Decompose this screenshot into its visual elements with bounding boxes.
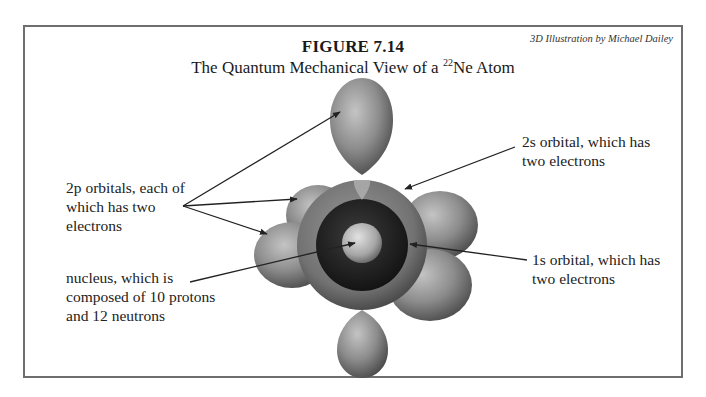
nucleus-sphere	[342, 223, 382, 263]
arrow-p-back	[183, 199, 297, 206]
label-2s-orbital: 2s orbital, which has two electrons	[522, 132, 650, 170]
p-lobe-bottom	[337, 310, 388, 378]
label-1s-orbital: 1s orbital, which has two electrons	[532, 250, 660, 288]
label-nucleus: nucleus, which is composed of 10 protons…	[66, 268, 215, 325]
p-lobe-top	[330, 78, 393, 175]
arrow-2s	[405, 147, 515, 189]
label-2p-orbitals: 2p orbitals, each of which has two elect…	[66, 178, 185, 235]
arrow-p-left	[183, 206, 267, 234]
